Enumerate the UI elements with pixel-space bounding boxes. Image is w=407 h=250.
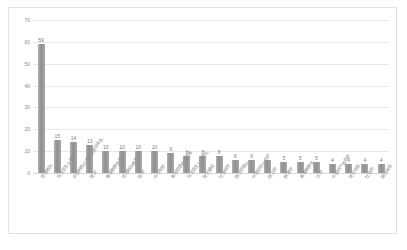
bar-slot: 10 [114,20,130,173]
y-axis-tick-label: 10 [24,149,30,154]
x-axis-label-slot: 党的建设 [195,176,211,232]
bar-value-label: 59 [38,38,44,43]
y-axis-tick-label: 40 [24,83,30,88]
bar-slot: 59 [33,20,49,173]
bar-slot: 4 [341,20,357,173]
bar-value-label: 10 [152,145,158,150]
bar-series: 591514131010101098886665554444 [33,20,389,173]
bar-value-label: 9 [169,147,172,152]
x-axis-label-slot: 政治学理论 [227,176,243,232]
bar-value-label: 4 [331,158,334,163]
bar-value-label: 4 [380,158,383,163]
x-axis-label-slot: 思想政治 [33,176,49,232]
x-axis-label-slot: 党的领导 [341,176,357,232]
bar-value-label: 10 [103,145,109,150]
x-axis-label-slot: 国际关系 [373,176,389,232]
bar-slot: 4 [324,20,340,173]
bar-slot: 8 [211,20,227,173]
bar-value-label: 6 [250,154,253,159]
x-axis-label-slot: 马克思主义中国化 [179,176,195,232]
x-axis-label-slot: 高校思想政治教育 [163,176,179,232]
bar-slot: 6 [227,20,243,173]
x-axis-label-slot: 社会科学 [211,176,227,232]
bar-slot: 10 [130,20,146,173]
bar-value-label: 15 [55,134,61,139]
x-axis-label-slot: 中共党史 [146,176,162,232]
bar-slot: 15 [49,20,65,173]
bar-value-label: 5 [315,156,318,161]
bar-slot: 6 [260,20,276,173]
x-axis-label-slot: 社会学 [357,176,373,232]
bar [54,140,61,173]
x-axis-label-slot: 党史 [82,176,98,232]
x-axis-label-slot: 高等教育学 [292,176,308,232]
bar-value-label: 8 [218,150,221,155]
x-axis-label-slot: 政治学 [260,176,276,232]
x-axis-label-slot: 马克思主义理论 [49,176,65,232]
bar-slot: 5 [276,20,292,173]
bar-value-label: 5 [283,156,286,161]
bar-value-label: 14 [71,136,77,141]
bar-value-label: 10 [135,145,141,150]
chart-container: 706050403020100 591514131010101098886665… [8,7,397,234]
x-axis-label-slot: 中国共产党历史 [324,176,340,232]
y-axis-tick-label: 60 [24,39,30,44]
x-axis-labels: 思想政治马克思主义理论中国特色社会主义理论体系党史高等教育管理思想政治教育哲学中… [33,176,389,232]
bar-value-label: 4 [363,158,366,163]
bar-slot: 5 [292,20,308,173]
x-axis-label-slot: 教育学 [276,176,292,232]
plot-area: 706050403020100 591514131010101098886665… [33,20,389,173]
x-axis-label-slot: 中国近现代史 [243,176,259,232]
x-axis-label-slot: 中国特色社会主义理论体系 [65,176,81,232]
x-axis-label-slot: 哲学 [130,176,146,232]
bar-slot: 10 [98,20,114,173]
y-axis-tick-label: 0 [27,171,30,176]
bar-slot: 6 [243,20,259,173]
y-axis-tick-label: 30 [24,105,30,110]
x-axis-label-slot: 思想政治教育 [114,176,130,232]
bar-value-label: 5 [299,156,302,161]
bar-slot: 9 [163,20,179,173]
bar-value-label: 13 [87,139,93,144]
y-axis-tick-label: 20 [24,127,30,132]
x-axis-tick-label: 哲学 [138,170,146,179]
y-axis-tick-label: 50 [24,61,30,66]
bar-value-label: 6 [234,154,237,159]
bar-slot: 10 [146,20,162,173]
x-axis-label-slot: 高等教育管理 [98,176,114,232]
bar-slot: 14 [65,20,81,173]
bar-slot: 4 [373,20,389,173]
bar-value-label: 10 [119,145,125,150]
bar-slot: 8 [179,20,195,173]
bar-slot: 5 [308,20,324,173]
x-axis-tick-label: 党史 [90,170,98,179]
x-axis-tick-label: 法学 [316,170,324,179]
bar [38,44,45,173]
x-axis-label-slot: 法学 [308,176,324,232]
bar-slot: 4 [357,20,373,173]
y-axis-tick-label: 70 [24,18,30,23]
